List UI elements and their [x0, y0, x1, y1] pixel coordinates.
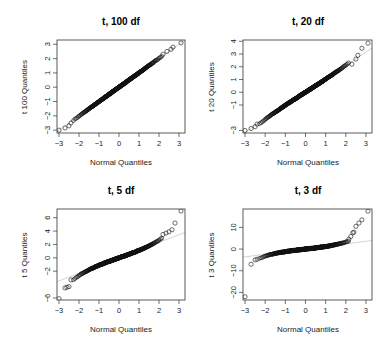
x-tick-label: −1: [281, 139, 290, 148]
x-axis-label: Normal Quantiles: [90, 325, 152, 334]
y-tick-label: 2: [43, 57, 52, 61]
x-tick-label: 2: [157, 139, 161, 148]
y-tick-label: 2: [43, 242, 52, 246]
panel-t5: t, 5 df t 5 Quantiles Normal Quantiles −…: [20, 185, 185, 334]
y-tick-label: 4: [43, 229, 52, 233]
y-axis: −6−20246: [43, 216, 57, 303]
x-tick-label: 2: [344, 306, 348, 315]
x-tick-label: −3: [55, 139, 64, 148]
x-tick-label: −1: [95, 139, 104, 148]
y-axis-label: t 5 Quantiles: [20, 233, 29, 278]
panel-t3: t, 3 df t 3 Quantiles Normal Quantiles −…: [207, 185, 372, 334]
x-tick-label: 3: [177, 139, 181, 148]
x-tick-label: 0: [303, 139, 307, 148]
y-tick-label: 2: [229, 65, 238, 69]
x-tick-label: −3: [241, 306, 250, 315]
x-tick-label: −2: [75, 306, 84, 315]
x-tick-label: 0: [303, 306, 307, 315]
x-tick-label: −1: [95, 306, 104, 315]
y-tick-label: −2: [43, 267, 52, 276]
x-axis: −3−2−10123: [55, 133, 181, 148]
y-tick-label: 1: [43, 71, 52, 75]
qq-plot-figure: t, 100 df t 100 Quantiles Normal Quantil…: [0, 0, 391, 350]
plot-area: −3−2−10123−20−10010: [229, 209, 372, 315]
y-tick-label: −3: [229, 126, 238, 135]
y-tick-label: 0: [43, 256, 52, 260]
x-tick-label: −1: [281, 306, 290, 315]
y-tick-label: −1: [229, 101, 238, 110]
x-tick-label: −3: [241, 139, 250, 148]
x-tick-label: 0: [117, 306, 121, 315]
x-tick-label: 0: [117, 139, 121, 148]
data-points: [243, 41, 370, 132]
x-tick-label: 1: [324, 306, 328, 315]
x-tick-label: 3: [364, 306, 368, 315]
x-tick-label: 1: [137, 139, 141, 148]
x-tick-label: −2: [261, 306, 270, 315]
x-axis-label: Normal Quantiles: [90, 158, 152, 167]
x-tick-label: 1: [137, 306, 141, 315]
x-axis: −3−2−10123: [241, 300, 368, 315]
y-axis: −3−2−10123: [43, 42, 57, 134]
x-tick-label: 3: [364, 139, 368, 148]
x-tick-label: 1: [324, 139, 328, 148]
y-tick-label: −3: [43, 126, 52, 135]
y-axis: −3−101234: [229, 39, 243, 135]
plot-area: −3−2−10123−6−20246: [43, 209, 185, 315]
y-tick-label: 0: [43, 85, 52, 89]
y-tick-label: −20: [229, 286, 238, 299]
x-axis: −3−2−10123: [55, 300, 181, 315]
y-axis-label: t 100 Quantiles: [20, 60, 29, 114]
y-axis-label: t 20 Quantiles: [207, 62, 216, 111]
y-tick-label: 0: [229, 90, 238, 94]
y-tick-label: 4: [229, 39, 238, 43]
x-tick-label: −2: [75, 139, 84, 148]
panel-title: t, 3 df: [295, 185, 322, 196]
x-tick-label: 2: [344, 139, 348, 148]
y-tick-label: 10: [229, 223, 238, 231]
y-tick-label: 3: [43, 42, 52, 46]
y-tick-label: 0: [229, 247, 238, 251]
y-tick-label: 1: [229, 77, 238, 81]
panel-t100: t, 100 df t 100 Quantiles Normal Quantil…: [20, 16, 185, 167]
data-points: [243, 209, 370, 299]
x-tick-label: 2: [157, 306, 161, 315]
plot-box: [57, 209, 185, 300]
y-tick-label: 6: [43, 216, 52, 220]
plot-area: −3−2−10123−3−101234: [229, 39, 372, 148]
x-axis-label: Normal Quantiles: [277, 158, 339, 167]
y-axis: −20−10010: [229, 223, 243, 299]
x-axis-label: Normal Quantiles: [277, 325, 339, 334]
plot-box: [243, 40, 372, 133]
data-points: [57, 209, 183, 301]
panel-t20: t, 20 df t 20 Quantiles Normal Quantiles…: [207, 16, 372, 167]
plot-area: −3−2−10123−3−2−10123: [43, 40, 185, 148]
x-axis: −3−2−10123: [241, 133, 368, 148]
x-tick-label: 3: [177, 306, 181, 315]
y-axis-label: t 3 Quantiles: [207, 233, 216, 278]
y-tick-label: −6: [43, 294, 52, 303]
x-tick-label: −3: [55, 306, 64, 315]
panel-title: t, 100 df: [102, 16, 140, 27]
y-tick-label: −2: [43, 112, 52, 121]
y-tick-label: 3: [229, 52, 238, 56]
panel-title: t, 5 df: [108, 185, 135, 196]
x-tick-label: −2: [261, 139, 270, 148]
panel-title: t, 20 df: [292, 16, 325, 27]
y-tick-label: −1: [43, 97, 52, 106]
y-tick-label: −10: [229, 264, 238, 277]
